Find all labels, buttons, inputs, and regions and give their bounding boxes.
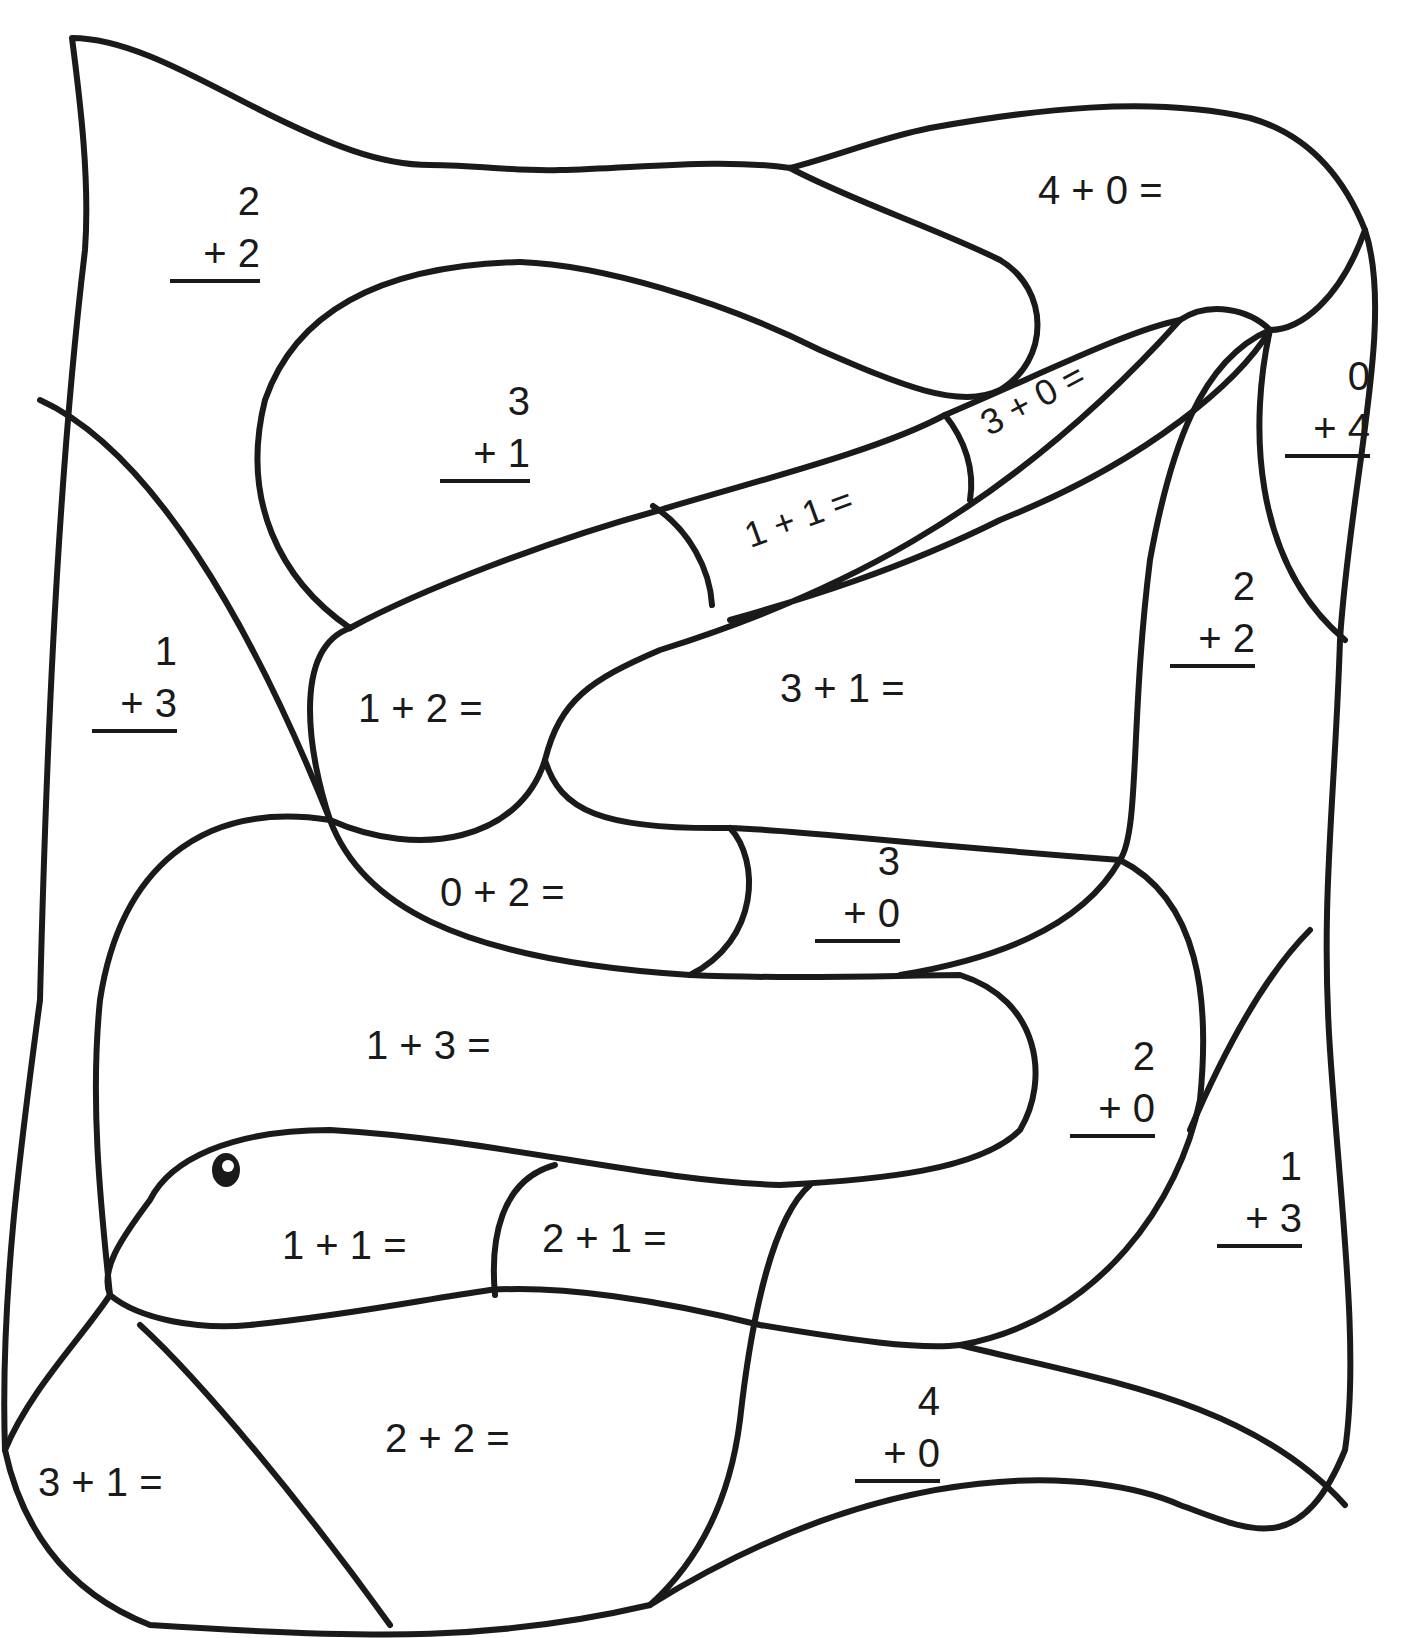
addend-bottom: + 0 [1070,1082,1155,1138]
addend-bottom: + 3 [92,677,177,733]
addend-top: 2 [170,175,260,227]
addend-top: 0 [1285,350,1370,402]
problem-p9: 3 + 1 = [780,668,905,708]
addend-top: 3 [440,375,530,427]
addend-bottom: + 2 [170,227,260,283]
problem-p11: 0 + 2 = [440,872,565,912]
problem-p8: 1 + 2 = [358,688,483,728]
problem-p3: 3 + 1 [440,375,530,483]
problem-p13: 1 + 3 = [366,1025,491,1065]
problem-p5: 0 + 4 [1285,350,1370,458]
addend-bottom: + 4 [1285,402,1370,458]
problem-p2: 4 + 0 = [1038,170,1163,210]
problem-p10: 2 + 2 [1170,560,1255,668]
addend-bottom: + 0 [855,1427,940,1483]
addend-bottom: + 1 [440,427,530,483]
problem-p7: 1 + 3 [92,625,177,733]
problem-p16: 1 + 1 = [282,1225,407,1265]
problem-p14: 2 + 0 [1070,1030,1155,1138]
addend-top: 2 [1170,560,1255,612]
problem-p1: 2 + 2 [170,175,260,283]
addend-top: 2 [1070,1030,1155,1082]
problem-p17: 2 + 1 = [542,1218,667,1258]
problem-p15: 1 + 3 [1217,1140,1302,1248]
addend-bottom: + 0 [815,887,900,943]
addend-top: 1 [92,625,177,677]
snake-eye-icon [212,1153,240,1187]
problem-p19: 4 + 0 [855,1375,940,1483]
addend-top: 1 [1217,1140,1302,1192]
problem-p12: 3 + 0 [815,835,900,943]
problem-p20: 3 + 1 = [38,1462,163,1502]
addend-bottom: + 2 [1170,612,1255,668]
problem-p18: 2 + 2 = [385,1418,510,1458]
addend-bottom: + 3 [1217,1192,1302,1248]
addend-top: 3 [815,835,900,887]
addend-top: 4 [855,1375,940,1427]
